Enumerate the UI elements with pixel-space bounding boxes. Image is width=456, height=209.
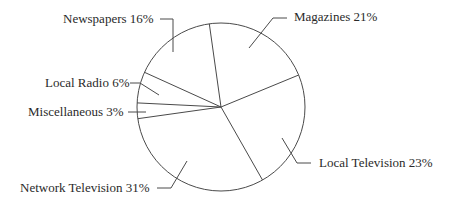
label-newspapers: Newspapers 16%	[63, 12, 154, 25]
label-network-television: Network Television 31%	[20, 181, 150, 194]
label-magazines: Magazines 21%	[294, 10, 377, 23]
label-miscellaneous: Miscellaneous 3%	[28, 105, 124, 118]
label-local-radio: Local Radio 6%	[45, 76, 129, 89]
label-local-television: Local Television 23%	[319, 156, 433, 169]
